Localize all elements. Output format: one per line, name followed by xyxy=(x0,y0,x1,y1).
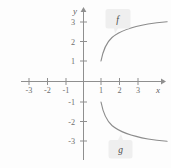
y-tick-label--1: -1 xyxy=(68,98,75,107)
y-tick-label-2: 2 xyxy=(71,38,75,47)
x-tick-label--2: -2 xyxy=(44,86,51,95)
y-tick-label--2: -2 xyxy=(68,118,75,127)
function-graph-figure: -3 -2 -1 1 2 3 3 2 1 -1 -2 -3 x y f xyxy=(0,0,171,168)
graph-canvas: -3 -2 -1 1 2 3 3 2 1 -1 -2 -3 x y f xyxy=(0,0,171,168)
curve-g-label: g xyxy=(118,145,123,155)
x-tick-label-2: 2 xyxy=(117,86,121,95)
y-tick-label-3: 3 xyxy=(71,18,75,27)
x-tick-label-1: 1 xyxy=(99,86,103,95)
callout-g: g xyxy=(109,134,133,159)
y-axis-arrow xyxy=(81,7,87,12)
callout-g-tail xyxy=(118,134,123,140)
x-tick-label--3: -3 xyxy=(26,86,33,95)
curve-g xyxy=(101,102,167,141)
axes-group xyxy=(21,7,166,160)
y-axis-label: y xyxy=(72,6,77,16)
x-axis-label: x xyxy=(155,85,160,95)
x-tick-label--1: -1 xyxy=(63,86,70,95)
x-axis-arrow xyxy=(161,79,166,85)
y-tick-label-1: 1 xyxy=(71,57,75,66)
x-tick-label-3: 3 xyxy=(136,86,140,95)
y-tick-label--3: -3 xyxy=(68,137,75,146)
